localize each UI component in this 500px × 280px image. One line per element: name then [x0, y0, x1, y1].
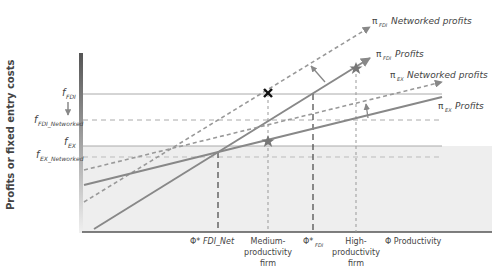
- svg-text:Profits: Profits: [455, 101, 484, 111]
- svg-text:FDI_Net: FDI_Net: [203, 237, 235, 246]
- svg-text:firm: firm: [260, 259, 276, 268]
- trade-fdi-diagram: Profits or fixed entry costs f FDI f FDI…: [0, 0, 500, 280]
- svg-text:EX: EX: [68, 142, 77, 149]
- x-label-phi-fdi-net: Φ* FDI_Net: [190, 237, 235, 246]
- label-pi-ex-networked: π EX Networked profits: [390, 70, 488, 82]
- svg-text:Φ*: Φ*: [190, 237, 200, 246]
- label-pi-fdi-profits: π FDI Profits: [376, 49, 424, 61]
- svg-text:Φ*: Φ*: [303, 237, 313, 246]
- svg-text:Profits: Profits: [395, 49, 424, 59]
- svg-text:FDI: FDI: [383, 55, 392, 61]
- x-label-medium-firm: Medium- productivity firm: [244, 237, 292, 268]
- x-label-phi-fdi: Φ* FDI: [303, 237, 324, 248]
- svg-text:Networked profits: Networked profits: [391, 16, 472, 26]
- y-label-f-ex-networked: f EX_Networked: [36, 149, 84, 163]
- svg-text:FDI_Networked: FDI_Networked: [38, 120, 84, 128]
- svg-text:productivity: productivity: [332, 248, 380, 257]
- svg-text:EX: EX: [445, 107, 452, 113]
- label-pi-ex-profits: π EX Profits: [438, 101, 484, 113]
- svg-text:productivity: productivity: [244, 248, 292, 257]
- svg-text:FDI: FDI: [66, 93, 76, 100]
- svg-text:FDI: FDI: [379, 22, 388, 28]
- svg-text:Medium-: Medium-: [251, 237, 286, 246]
- svg-text:EX: EX: [397, 76, 404, 82]
- svg-text:π: π: [376, 49, 382, 59]
- svg-text:π: π: [438, 101, 444, 111]
- fdi-shift-arrow: [311, 66, 325, 82]
- svg-text:High-: High-: [345, 237, 366, 246]
- svg-text:EX_Networked: EX_Networked: [40, 155, 84, 163]
- y-axis-title: Profits or fixed entry costs: [5, 60, 16, 210]
- x-label-high-firm: High- productivity firm: [332, 237, 380, 268]
- y-label-f-ex: f EX: [64, 136, 77, 149]
- shaded-region: [82, 146, 492, 232]
- svg-text:firm: firm: [348, 259, 364, 268]
- label-pi-fdi-networked: π FDI Networked profits: [372, 16, 472, 28]
- svg-text:π: π: [390, 70, 396, 80]
- y-label-f-fdi: f FDI: [62, 87, 76, 100]
- svg-text:π: π: [372, 16, 378, 26]
- y-label-f-fdi-networked: f FDI_Networked: [34, 114, 84, 128]
- y-axis-bar: [79, 53, 83, 233]
- svg-text:FDI: FDI: [315, 242, 324, 248]
- x-axis-title: Φ Productivity: [385, 237, 442, 246]
- svg-text:Networked profits: Networked profits: [407, 70, 488, 80]
